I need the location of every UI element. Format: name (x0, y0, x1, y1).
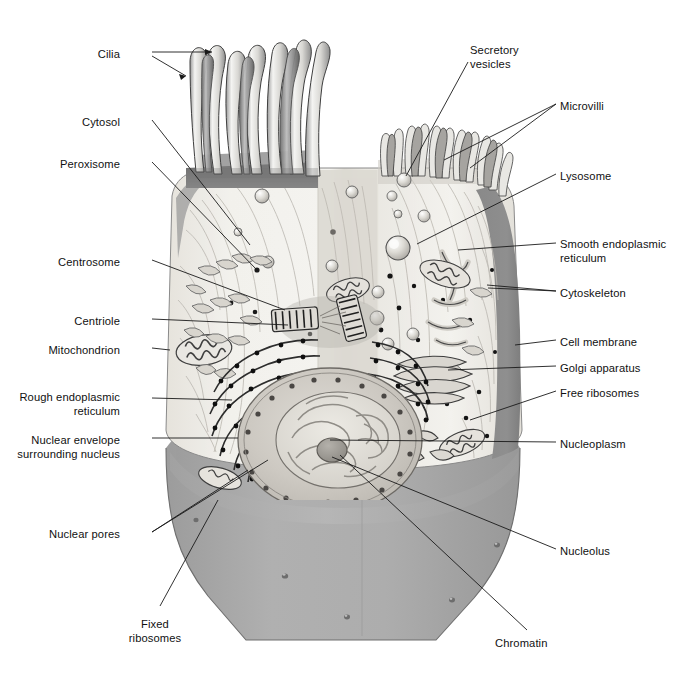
label-lysosome: Lysosome (560, 170, 611, 184)
label-chromatin: Chromatin (495, 637, 548, 651)
cilia-group (186, 40, 330, 188)
label-centrosome: Centrosome (0, 256, 120, 270)
label-mitochondrion: Mitochondrion (0, 344, 120, 358)
label-cytoskeleton: Cytoskeleton (560, 287, 626, 301)
label-nuclear-pores: Nuclear pores (0, 528, 120, 542)
label-peroxisome: Peroxisome (0, 158, 120, 172)
label-cytosol: Cytosol (0, 116, 120, 130)
label-fixed-ribosomes: Fixed ribosomes (95, 618, 215, 645)
label-centriole: Centriole (0, 315, 120, 329)
label-smooth-er: Smooth endoplasmic reticulum (560, 238, 666, 265)
lysosome-shape (386, 236, 410, 260)
label-nuclear-envelope: Nuclear envelope surrounding nucleus (0, 434, 120, 461)
label-rough-er: Rough endoplasmic reticulum (0, 391, 120, 418)
nucleolus-shape (317, 438, 347, 462)
label-free-ribosomes: Free ribosomes (560, 387, 639, 401)
label-cell-membrane: Cell membrane (560, 336, 637, 350)
label-secretory-vesicles: Secretory vesicles (470, 44, 519, 71)
label-cilia: Cilia (0, 48, 120, 62)
leader-line-cilia-b (152, 56, 186, 76)
label-microvilli: Microvilli (560, 100, 604, 114)
leader-line-mitochondrion (152, 348, 170, 350)
label-nucleolus: Nucleolus (560, 545, 610, 559)
leader-line-cell-membrane (515, 340, 556, 345)
label-golgi: Golgi apparatus (560, 362, 640, 376)
label-nucleoplasm: Nucleoplasm (560, 438, 626, 452)
cell-diagram-figure: CiliaCytosolPeroxisomeCentrosomeCentriol… (0, 0, 682, 673)
